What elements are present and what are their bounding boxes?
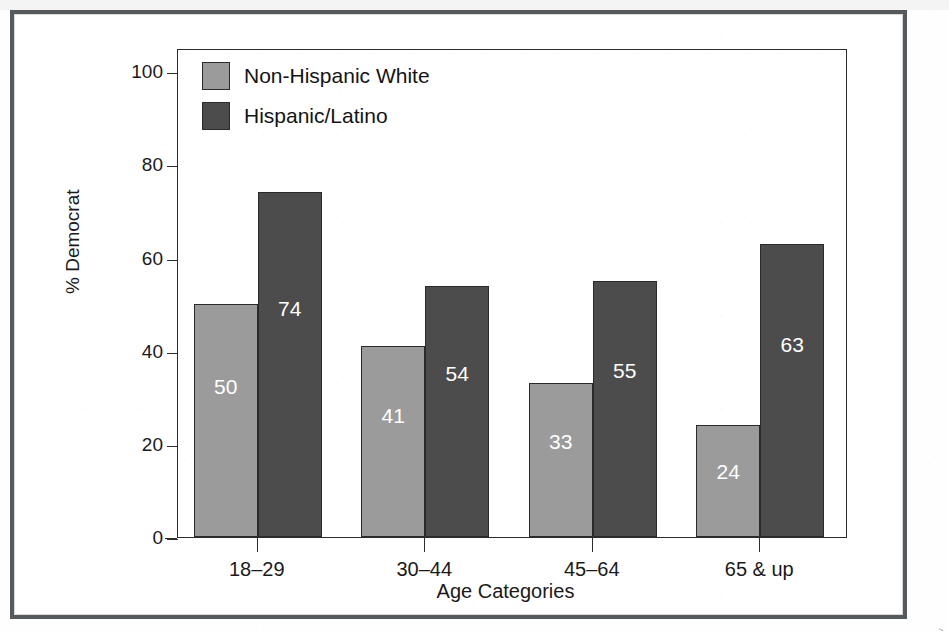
bar[interactable]: 41 [361, 346, 425, 537]
y-axis-tick [167, 539, 178, 540]
x-axis-tick [592, 538, 593, 552]
legend-item[interactable]: Hispanic/Latino [202, 102, 430, 130]
bar[interactable]: 63 [760, 244, 824, 537]
bar[interactable]: 74 [258, 192, 322, 537]
bar[interactable]: 55 [593, 281, 657, 537]
y-axis-tick-label: 20 [142, 434, 163, 456]
bar-chart: % Democrat 020406080100 Non-Hispanic Whi… [14, 14, 911, 615]
bar-value-label: 41 [362, 404, 424, 428]
legend-label: Non-Hispanic White [244, 64, 430, 88]
x-axis-tick-label: 18–29 [229, 558, 285, 581]
y-axis-tick [167, 166, 178, 167]
y-axis-tick [167, 446, 178, 447]
legend-label: Hispanic/Latino [244, 104, 388, 128]
legend-swatch-non-hispanic-white [202, 62, 230, 90]
x-axis-title-text: Age Categories [437, 580, 575, 603]
bar-value-label: 74 [259, 297, 321, 321]
figure-outer-border: % Democrat 020406080100 Non-Hispanic Whi… [10, 10, 907, 619]
y-axis-tick-label: 80 [142, 154, 163, 176]
x-axis-tick-label: 30–44 [396, 558, 452, 581]
y-axis-title: % Democrat [62, 189, 84, 294]
y-axis-tick-label: 0 [152, 527, 163, 549]
x-axis-baseline-stub [165, 538, 177, 539]
x-axis-tick-label: 45–64 [564, 558, 620, 581]
bar[interactable]: 33 [529, 383, 593, 537]
bar-value-label: 55 [594, 359, 656, 383]
legend-item[interactable]: Non-Hispanic White [202, 62, 430, 90]
x-axis-tick-label: 65 & up [725, 558, 794, 581]
y-axis-tick-label: 100 [131, 61, 163, 83]
y-axis-tick [167, 353, 178, 354]
y-axis-tick [167, 260, 178, 261]
x-axis-tick [424, 538, 425, 552]
y-axis-tick [167, 73, 178, 74]
bar[interactable]: 50 [194, 304, 258, 537]
x-axis-title: Age Categories [14, 580, 911, 603]
y-axis-tick-label: 60 [142, 248, 163, 270]
plot-area: Non-Hispanic WhiteHispanic/Latino 507441… [177, 49, 847, 538]
y-axis-tick-label: 40 [142, 341, 163, 363]
x-axis-tick [257, 538, 258, 552]
bar-value-label: 54 [426, 362, 488, 386]
bar-value-label: 50 [195, 375, 257, 399]
bar-value-label: 24 [697, 460, 759, 484]
x-axis-tick [759, 538, 760, 552]
bar[interactable]: 54 [425, 286, 489, 537]
bar[interactable]: 24 [696, 425, 760, 537]
chart-legend: Non-Hispanic WhiteHispanic/Latino [202, 62, 430, 142]
figure-page: % Democrat 020406080100 Non-Hispanic Whi… [0, 0, 949, 631]
scan-edge-strip [0, 0, 949, 10]
bar-value-label: 63 [761, 333, 823, 357]
legend-swatch-hispanic-latino [202, 102, 230, 130]
bar-value-label: 33 [530, 430, 592, 454]
